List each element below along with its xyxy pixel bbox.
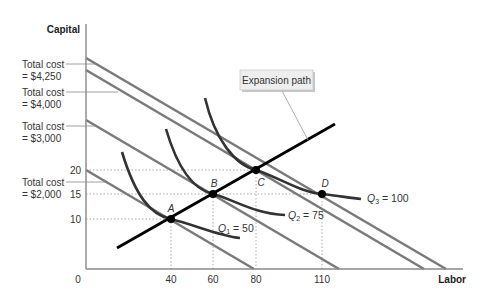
x-tick-110: 110 (314, 274, 330, 285)
expansion-path-leader (281, 89, 308, 140)
label-q2: Q2 = 75 (288, 209, 324, 222)
point-a (167, 215, 175, 223)
guide-lines (86, 170, 322, 269)
expansion-path-label: Expansion path (242, 75, 311, 86)
cost-label-4250-line1: Total cost (22, 59, 64, 70)
cost-label-4000-line2: = $4,000 (22, 99, 62, 110)
cost-label-2000-line1: Total cost (22, 177, 64, 188)
isoquants (122, 98, 361, 238)
cost-label-3000-line1: Total cost (22, 121, 64, 132)
cost-label-4250-line2: = $4,250 (22, 71, 62, 82)
x-tick-80: 80 (250, 274, 262, 285)
point-c (252, 166, 260, 174)
label-point-b: B (211, 178, 218, 189)
label-q1: Q1 = 50 (218, 222, 254, 235)
isocost-isoquant-chart: Expansion path A B C D Q1 = 50 Q2 = 75 Q… (0, 0, 490, 299)
y-axis-title: Capital (47, 24, 81, 35)
cost-label-2000-line2: = $2,000 (22, 189, 62, 200)
label-point-a: A (167, 203, 175, 214)
x-tick-60: 60 (207, 274, 219, 285)
label-point-d: D (321, 178, 328, 189)
x-tick-40: 40 (165, 274, 177, 285)
cost-label-3000-line2: = $3,000 (22, 133, 62, 144)
point-d (318, 190, 326, 198)
y-tick-20: 20 (70, 165, 82, 176)
label-q3: Q3 = 100 (367, 192, 409, 205)
point-b (209, 190, 217, 198)
y-tick-15: 15 (70, 189, 82, 200)
y-tick-10: 10 (70, 214, 82, 225)
x-tick-0: 0 (75, 274, 81, 285)
label-point-c: C (257, 177, 265, 188)
cost-label-4000-line1: Total cost (22, 87, 64, 98)
x-axis-title: Labor (438, 274, 466, 285)
